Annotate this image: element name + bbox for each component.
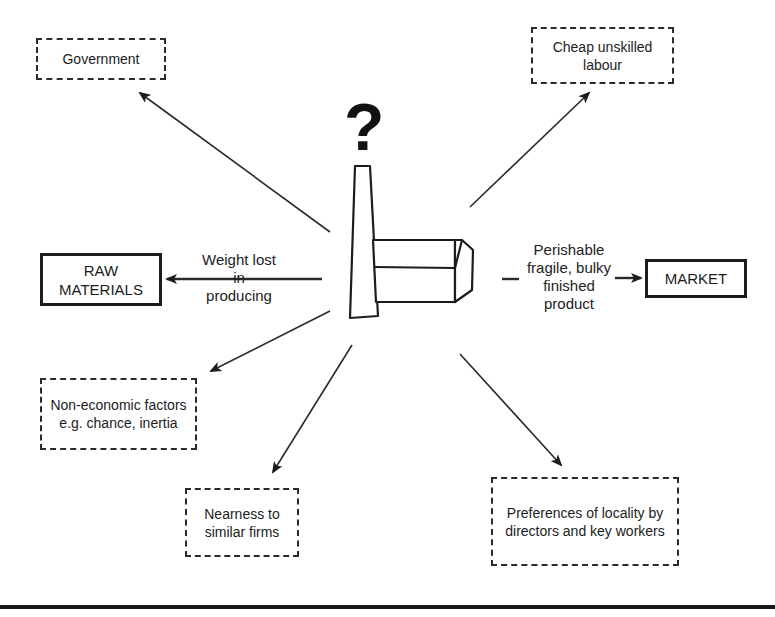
building-end (455, 240, 473, 302)
arrow-to-preferences (460, 354, 561, 465)
question-mark-icon: ? (344, 94, 384, 160)
preferences-label: Preferences of locality by directors and… (501, 504, 669, 540)
non-economic-box: Non-economic factors e.g. chance, inerti… (40, 378, 197, 450)
market-box: MARKET (645, 259, 747, 298)
labour-label: Cheap unskilled labour (543, 38, 663, 74)
raw-materials-box: RAW MATERIALS (40, 253, 162, 306)
market-label: MARKET (665, 269, 728, 288)
arrow-to-non-economic (211, 311, 330, 371)
factory-icon (350, 166, 473, 318)
bottom-divider (0, 605, 775, 609)
nearness-label: Nearness to similar firms (194, 505, 290, 541)
government-label: Government (62, 50, 139, 68)
arrow-to-labour (470, 93, 589, 207)
non-economic-label: Non-economic factors e.g. chance, inerti… (48, 396, 189, 432)
raw-materials-edge-label: Weight lost in producing (202, 251, 276, 305)
labour-box: Cheap unskilled labour (531, 27, 674, 84)
preferences-box: Preferences of locality by directors and… (491, 477, 679, 566)
building-front (373, 240, 455, 302)
raw-materials-label: RAW MATERIALS (56, 261, 146, 299)
market-edge-label: Perishable fragile, bulky finished produ… (520, 241, 618, 313)
nearness-box: Nearness to similar firms (185, 488, 299, 557)
arrow-to-nearness (273, 345, 352, 472)
arrow-to-government (140, 93, 330, 232)
industrial-location-diagram: ? Government Cheap unskilled labour RAW … (0, 0, 775, 617)
government-box: Government (36, 38, 166, 80)
